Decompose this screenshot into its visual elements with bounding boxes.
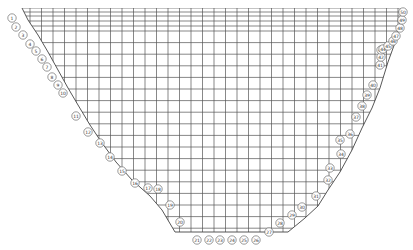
node-marker: 6 [38, 55, 46, 63]
node-marker: 41 [376, 61, 384, 69]
node-marker: 7 [43, 63, 51, 71]
node-marker: 10 [59, 89, 67, 97]
marker-label: 10 [60, 91, 66, 96]
marker-label: 49 [399, 18, 405, 23]
marker-label: 1 [11, 16, 14, 21]
node-marker: 17 [144, 184, 152, 192]
marker-label: 15 [119, 169, 125, 174]
marker-label: 13 [97, 141, 103, 146]
marker-label: 24 [229, 238, 235, 243]
marker-label: 25 [241, 238, 247, 243]
mesh-diagram: 1234567891011121314151617181920212223242… [0, 0, 413, 250]
node-marker: 49 [398, 16, 406, 24]
marker-label: 48 [397, 26, 403, 31]
marker-label: 42 [378, 55, 384, 60]
node-marker: 9 [54, 81, 62, 89]
node-marker: 25 [240, 236, 248, 244]
marker-label: 21 [194, 238, 200, 243]
marker-label: 32 [325, 178, 331, 183]
node-marker: 35 [336, 136, 344, 144]
node-markers: 1234567891011121314151617181920212223242… [8, 8, 407, 244]
node-marker: 37 [352, 113, 360, 121]
node-marker: 3 [19, 31, 27, 39]
marker-label: 36 [347, 132, 353, 137]
node-marker: 23 [216, 236, 224, 244]
node-marker: 40 [369, 81, 377, 89]
node-marker: 2 [12, 23, 20, 31]
node-marker: 20 [176, 218, 184, 226]
marker-label: 9 [57, 83, 60, 88]
marker-label: 6 [41, 57, 44, 62]
node-marker: 47 [392, 32, 400, 40]
node-marker: 1 [8, 14, 16, 22]
marker-label: 39 [364, 93, 370, 98]
marker-label: 29 [289, 213, 295, 218]
marker-label: 16 [132, 181, 138, 186]
node-marker: 18 [154, 185, 162, 193]
node-marker: 32 [324, 176, 332, 184]
valley-boundary [22, 8, 403, 232]
node-marker: 22 [205, 236, 213, 244]
marker-label: 19 [167, 203, 173, 208]
marker-label: 27 [266, 230, 272, 235]
node-marker: 33 [326, 164, 334, 172]
marker-label: 47 [393, 34, 399, 39]
marker-label: 30 [299, 205, 305, 210]
marker-label: 38 [359, 104, 365, 109]
marker-label: 33 [327, 166, 333, 171]
marker-label: 35 [337, 138, 343, 143]
node-marker: 29 [288, 211, 296, 219]
node-marker: 24 [228, 236, 236, 244]
marker-label: 7 [46, 65, 49, 70]
marker-label: 17 [145, 186, 151, 191]
marker-label: 23 [217, 238, 223, 243]
node-marker: 13 [96, 139, 104, 147]
marker-label: 8 [51, 75, 54, 80]
marker-label: 18 [155, 187, 161, 192]
node-marker: 12 [84, 128, 92, 136]
node-marker: 11 [72, 112, 80, 120]
node-marker: 26 [252, 236, 260, 244]
node-marker: 14 [106, 153, 114, 161]
node-marker: 27 [265, 228, 273, 236]
marker-label: 34 [338, 152, 344, 157]
marker-label: 5 [35, 49, 38, 54]
node-marker: 34 [337, 150, 345, 158]
node-marker: 4 [26, 40, 34, 48]
marker-label: 37 [353, 115, 359, 120]
marker-label: 31 [313, 194, 319, 199]
node-marker: 28 [276, 219, 284, 227]
marker-label: 3 [22, 33, 25, 38]
node-marker: 39 [363, 91, 371, 99]
node-marker: 21 [193, 236, 201, 244]
node-marker: 16 [131, 179, 139, 187]
node-marker: 38 [358, 102, 366, 110]
node-marker: 19 [166, 201, 174, 209]
node-marker: 48 [396, 24, 404, 32]
node-marker: 8 [48, 73, 56, 81]
marker-label: 41 [377, 63, 383, 68]
marker-label: 20 [177, 220, 183, 225]
node-marker: 15 [118, 167, 126, 175]
marker-label: 12 [85, 130, 91, 135]
marker-label: 4 [29, 42, 32, 47]
node-marker: 36 [346, 130, 354, 138]
marker-label: 26 [253, 238, 259, 243]
node-marker: 30 [298, 203, 306, 211]
marker-label: 22 [206, 238, 212, 243]
node-marker: 50 [399, 8, 407, 16]
marker-label: 40 [370, 83, 376, 88]
mesh-grid [12, 8, 413, 240]
marker-label: 11 [73, 114, 79, 119]
node-marker: 31 [312, 192, 320, 200]
node-marker: 5 [32, 47, 40, 55]
marker-label: 14 [107, 155, 113, 160]
marker-label: 2 [15, 25, 18, 30]
marker-label: 28 [277, 221, 283, 226]
marker-label: 50 [400, 10, 406, 15]
